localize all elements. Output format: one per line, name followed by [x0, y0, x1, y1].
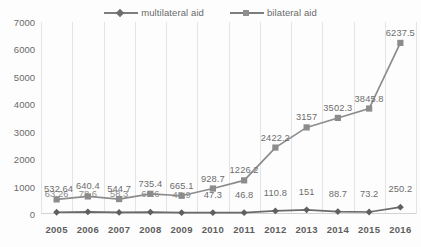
data-point-marker[interactable] [335, 115, 341, 121]
legend-item-multilateral-aid[interactable]: multilateral aid [104, 7, 204, 18]
data-point-marker[interactable] [178, 209, 185, 216]
x-axis-tick-label: 2008 [139, 224, 161, 235]
data-label: 532.64 [44, 184, 73, 194]
x-axis-tick-label: 2006 [77, 224, 99, 235]
x-axis-tick-label: 2009 [170, 224, 192, 235]
data-label: 69.6 [141, 189, 160, 199]
data-label: 544.7 [107, 184, 131, 194]
diamond-marker-icon [104, 8, 138, 17]
data-label: 250.2 [388, 184, 412, 194]
data-point-marker[interactable] [209, 209, 216, 216]
plot-area: 63.2678.658.369.648.947.346.8110.815188.… [41, 22, 416, 214]
x-axis-tick-label: 2011 [233, 224, 255, 235]
y-axis-tick-label: 4000 [14, 99, 35, 110]
data-label: 47.3 [204, 190, 223, 200]
series-line-multilateral-aid [57, 207, 401, 213]
data-label: 46.8 [235, 190, 254, 200]
square-marker-icon [230, 8, 264, 17]
data-label: 3502.3 [323, 103, 352, 113]
x-axis-tick-label: 2005 [45, 224, 67, 235]
data-point-marker[interactable] [241, 177, 247, 183]
y-axis-tick-label: 1000 [14, 181, 35, 192]
y-axis-tick-label: 0 [30, 209, 35, 220]
data-label: 640.4 [76, 181, 100, 191]
legend-label-multilateral-aid: multilateral aid [141, 7, 204, 18]
x-axis-tick-label: 2016 [389, 224, 411, 235]
data-label: 665.1 [170, 181, 194, 191]
x-axis-tick-label: 2014 [327, 224, 349, 235]
data-point-marker[interactable] [366, 209, 373, 216]
y-axis-tick-label: 6000 [14, 44, 35, 55]
legend-item-bilateral-aid[interactable]: bilateral aid [230, 7, 317, 18]
chart-legend: multilateral aid bilateral aid [0, 7, 421, 18]
line-chart: multilateral aid bilateral aid 010002000… [0, 0, 421, 247]
x-axis-tick-label: 2013 [295, 224, 317, 235]
x-axis-tick-label: 2015 [358, 224, 380, 235]
data-point-marker[interactable] [147, 209, 154, 216]
data-point-marker[interactable] [397, 204, 404, 211]
data-label: 928.7 [201, 174, 225, 184]
series-line-bilateral-aid [57, 43, 401, 199]
data-point-marker[interactable] [334, 208, 341, 215]
data-label: 735.4 [138, 179, 162, 189]
y-axis-ticks: 01000200030004000500060007000 [0, 22, 38, 214]
data-point-marker[interactable] [304, 124, 310, 130]
data-point-marker[interactable] [366, 105, 372, 111]
x-axis-ticks: 2005200620072008200920102011201220132014… [41, 224, 416, 240]
data-point-marker[interactable] [397, 40, 403, 46]
x-axis-tick-label: 2010 [202, 224, 224, 235]
x-axis-tick-label: 2012 [264, 224, 286, 235]
y-axis-tick-label: 3000 [14, 126, 35, 137]
data-point-marker[interactable] [53, 209, 60, 216]
data-label: 110.8 [264, 188, 287, 198]
data-label: 151 [299, 187, 315, 197]
y-axis-tick-label: 2000 [14, 154, 35, 165]
data-point-marker[interactable] [272, 208, 279, 215]
data-point-marker[interactable] [116, 209, 123, 216]
data-label: 1226.2 [230, 165, 259, 175]
data-label: 3157 [296, 112, 317, 122]
y-axis-tick-label: 7000 [14, 17, 35, 28]
data-label: 48.9 [172, 190, 191, 200]
data-label: 73.2 [360, 189, 379, 199]
data-label: 2422.2 [261, 133, 290, 143]
data-label: 88.7 [329, 189, 348, 199]
x-axis-tick-label: 2007 [108, 224, 130, 235]
data-label: 6237.5 [386, 28, 415, 38]
y-axis-tick-label: 5000 [14, 71, 35, 82]
gridline-vertical [416, 22, 417, 214]
data-point-marker[interactable] [84, 208, 91, 215]
data-point-marker[interactable] [272, 144, 278, 150]
legend-label-bilateral-aid: bilateral aid [267, 7, 317, 18]
data-point-marker[interactable] [303, 206, 310, 213]
data-point-marker[interactable] [241, 209, 248, 216]
data-label: 3845.8 [355, 94, 384, 104]
